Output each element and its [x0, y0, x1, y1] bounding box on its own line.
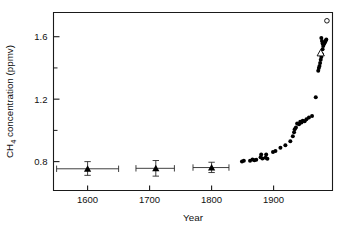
x-tick-label-1900: 1900 [263, 194, 284, 205]
data-point-filled-circle [294, 126, 298, 130]
data-point-filled-circle [265, 157, 269, 161]
y-tick-label-1.2: 1.2 [34, 94, 47, 105]
data-point-filled-circle [278, 146, 282, 150]
data-point-filled-circle [319, 36, 323, 40]
x-axis-title: Year [183, 212, 204, 223]
data-point-filled-circle [288, 139, 292, 143]
data-point-filled-circle [283, 143, 287, 147]
y-tick-label-1.6: 1.6 [34, 31, 47, 42]
data-point-filled-circle [273, 149, 277, 153]
data-point-filled-circle [310, 114, 314, 118]
x-tick-label-1600: 1600 [77, 194, 98, 205]
data-point-filled-circle [264, 153, 268, 157]
data-point-filled-circle [254, 158, 258, 162]
x-tick-label-1800: 1800 [201, 194, 222, 205]
ch4-concentration-scatter-chart: 1600170018001900 0.81.21.6 YearCH4 conce… [0, 0, 341, 230]
data-point-open-circle [325, 18, 330, 23]
data-point-filled-circle [242, 159, 246, 163]
chart-background [0, 0, 341, 230]
x-tick-label-1700: 1700 [139, 194, 160, 205]
data-point-filled-circle [291, 134, 295, 138]
data-point-filled-circle [259, 152, 263, 156]
data-point-filled-circle [324, 38, 328, 42]
y-tick-label-0.8: 0.8 [34, 156, 47, 167]
data-point-filled-circle [314, 95, 318, 99]
chart-figure: 1600170018001900 0.81.21.6 YearCH4 conce… [0, 0, 341, 230]
